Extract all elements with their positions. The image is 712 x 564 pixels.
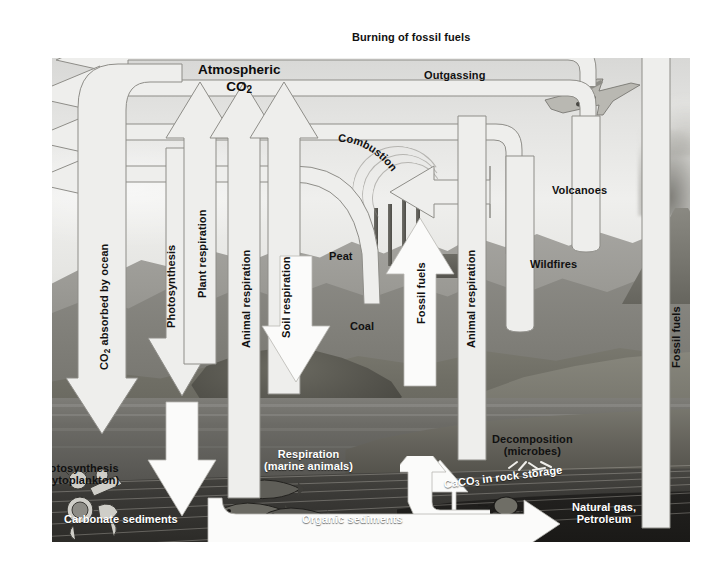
label-organic-sediments: Organic sediments [302,513,403,525]
label-photosynthesis: Photosynthesis [165,245,177,328]
combustion-text: Combustion [338,132,400,173]
arrow-fossil-fuels-right [640,58,674,530]
label-animal-respiration-marine: Animal respiration [465,250,477,348]
label-outgassing: Outgassing [424,69,486,81]
label-natural-gas-petroleum: Natural gas, Petroleum [558,501,650,526]
carbon-cycle-figure: CO2 absorbed by ocean Photosynthesis Pla… [0,0,712,564]
label-soil-respiration: Soil respiration [280,256,292,338]
label-burning-of-fossil-fuels: Burning of fossil fuels [352,31,470,43]
label-wildfires: Wildfires [530,258,577,270]
label-plant-respiration: Plant respiration [196,210,208,299]
label-coal: Coal [350,320,374,332]
label-peat: Peat [329,250,353,262]
label-volcanoes: Volcanoes [552,184,607,196]
label-respiration-marine-animals: Respiration (marine animals) [264,448,353,473]
label-fossil-fuels-center: Fossil fuels [415,262,427,324]
label-photosynthesis-phytoplankton: Photosynthesis (phytoplankton) [52,462,140,487]
label-carbonate-sediments: Carbonate sediments [64,513,178,525]
label-combustion: Combustion [330,122,450,232]
label-animal-respiration-terrestrial: Animal respiration [240,250,252,348]
arrow-wildfires-riser [504,154,538,334]
label-co2-absorbed-by-ocean: CO2 absorbed by ocean [98,244,112,370]
svg-text:Combustion: Combustion [338,132,400,173]
label-fossil-fuels-right: Fossil fuels [670,306,682,368]
page-title: Atmospheric CO2 [198,62,281,97]
label-decomposition: Decomposition (microbes) [492,433,573,458]
arrow-peat-to-coal [258,254,332,384]
